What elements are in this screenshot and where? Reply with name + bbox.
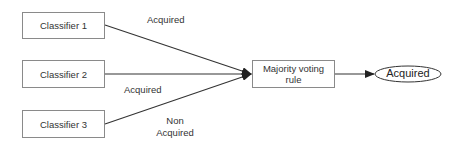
edge-label-acquired-2: Acquired — [124, 84, 162, 96]
edge-classifier1-to-majority — [105, 25, 251, 74]
majority-voting-label-line2: rule — [286, 74, 302, 85]
classifier-1-box: Classifier 1 — [22, 12, 105, 39]
edge-label-non: Non — [155, 115, 195, 127]
classifier-3-label: Classifier 3 — [40, 119, 87, 130]
output-label: Acquired — [375, 67, 441, 79]
majority-voting-box: Majority voting rule — [252, 60, 335, 88]
majority-voting-label-line1: Majority voting — [263, 63, 324, 74]
classifier-3-box: Classifier 3 — [22, 110, 105, 138]
classifier-2-label: Classifier 2 — [40, 69, 87, 80]
classifier-1-label: Classifier 1 — [40, 20, 87, 31]
edge-label-acquired-3: Acquired — [155, 127, 195, 139]
edge-label-acquired-1: Acquired — [147, 14, 185, 26]
classifier-2-box: Classifier 2 — [22, 60, 105, 88]
edge-label-non-acquired: Non Acquired — [155, 115, 195, 139]
